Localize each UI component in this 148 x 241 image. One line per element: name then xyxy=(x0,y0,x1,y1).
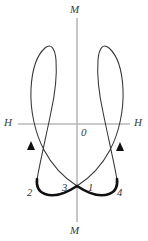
axis-label-m-bottom: M xyxy=(70,225,79,236)
figure-root: M M H H 0 2 3 1 4 xyxy=(0,0,148,241)
left-loop-curve xyxy=(31,46,77,195)
left-branch-arrow-icon xyxy=(27,141,35,150)
mh-curve-svg xyxy=(0,0,148,241)
axis-label-h-right: H xyxy=(134,117,142,128)
branch-label-1: 1 xyxy=(88,183,93,194)
origin-label: 0 xyxy=(81,127,87,138)
branch-label-3: 3 xyxy=(62,183,67,194)
right-branch-arrow-icon xyxy=(116,142,124,151)
branch-label-2: 2 xyxy=(27,188,32,199)
right-loop-curve xyxy=(77,46,123,195)
axis-label-m-top: M xyxy=(70,4,79,15)
axis-label-h-left: H xyxy=(4,117,12,128)
branch-label-4: 4 xyxy=(117,188,122,199)
